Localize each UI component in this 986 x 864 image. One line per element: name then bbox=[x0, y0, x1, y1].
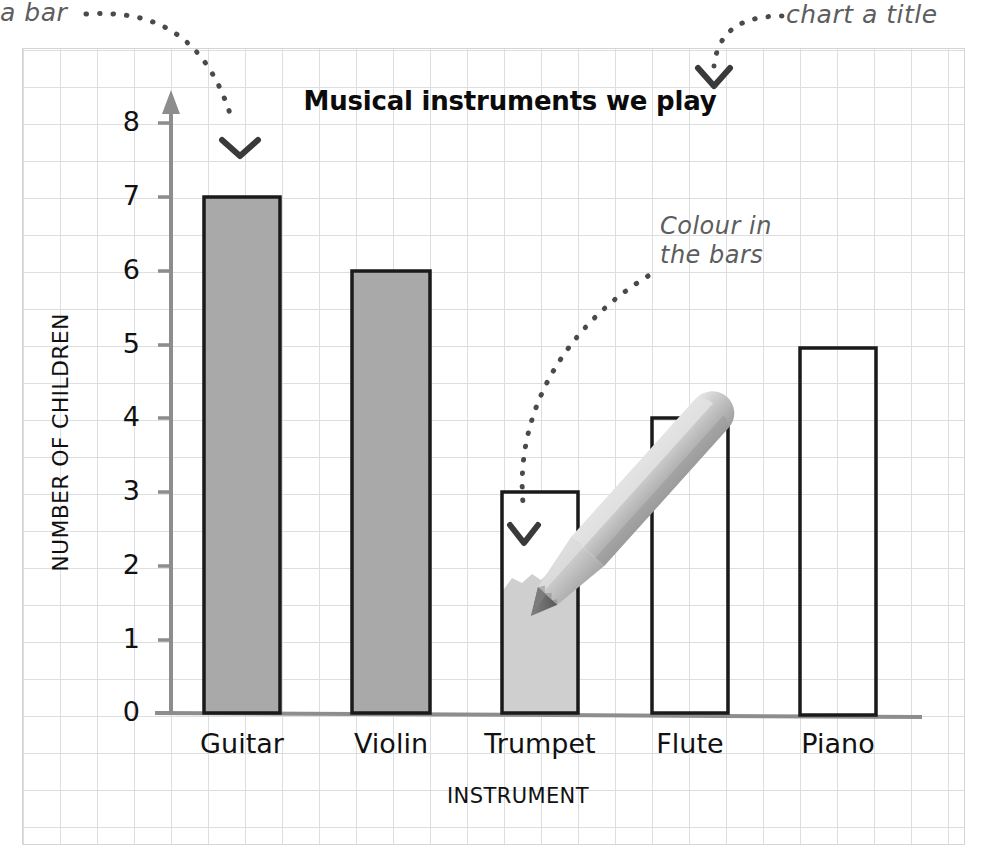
x-category-label-flute: Flute bbox=[605, 728, 775, 759]
x-category-label-trumpet: Trumpet bbox=[455, 728, 625, 759]
annotation-chart-a-title: chart a title bbox=[786, 0, 938, 29]
x-axis-title: INSTRUMENT bbox=[0, 784, 986, 808]
y-tick-label-3: 3 bbox=[100, 475, 140, 506]
annotation-a-bar: a bar bbox=[0, 0, 67, 27]
annotation-colour-in-the-bars: Colour in the bars bbox=[660, 212, 772, 271]
y-tick-label-0: 0 bbox=[100, 696, 140, 727]
bar-piano bbox=[800, 348, 876, 715]
y-tick-label-7: 7 bbox=[100, 180, 140, 211]
worksheet-page: a bar chart a title Colour in the bars M… bbox=[0, 0, 986, 864]
bar-guitar bbox=[204, 197, 280, 713]
x-category-label-guitar: Guitar bbox=[157, 728, 327, 759]
annotation-colour-line-1: Colour in bbox=[660, 212, 772, 241]
y-tick-label-5: 5 bbox=[100, 328, 140, 359]
bar-violin bbox=[352, 271, 430, 713]
y-tick-label-1: 1 bbox=[100, 623, 140, 654]
x-category-label-violin: Violin bbox=[306, 728, 476, 759]
chart-title: Musical instruments we play bbox=[0, 86, 986, 116]
y-tick-label-8: 8 bbox=[100, 106, 140, 137]
annotation-colour-line-2: the bars bbox=[660, 241, 772, 270]
y-axis-title: NUMBER OF CHILDREN bbox=[48, 313, 73, 573]
y-axis bbox=[158, 90, 180, 714]
x-category-label-piano: Piano bbox=[753, 728, 923, 759]
y-tick-label-6: 6 bbox=[100, 254, 140, 285]
y-tick-label-4: 4 bbox=[100, 401, 140, 432]
callout-arrow-chart-title bbox=[698, 16, 782, 86]
y-tick-label-2: 2 bbox=[100, 549, 140, 580]
